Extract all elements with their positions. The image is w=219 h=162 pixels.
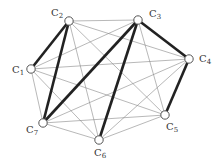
node-c2 xyxy=(65,17,73,25)
node-c1 xyxy=(27,65,35,73)
edge-c4-c5 xyxy=(165,59,189,115)
node-label-c5: C5 xyxy=(166,121,178,134)
complete-graph-diagram: C1C2C3C4C5C6C7 xyxy=(0,0,219,162)
node-c5 xyxy=(161,111,169,119)
node-labels: C1C2C3C4C5C6C7 xyxy=(12,7,212,160)
node-label-c1: C1 xyxy=(12,64,24,77)
node-c7 xyxy=(39,119,47,127)
node-c3 xyxy=(134,16,142,24)
edge-c2-c6 xyxy=(69,21,99,140)
edge-c3-c5 xyxy=(138,20,165,115)
node-c4 xyxy=(185,55,193,63)
node-label-c6: C6 xyxy=(94,147,107,160)
node-label-c7: C7 xyxy=(26,124,38,137)
node-label-c4: C4 xyxy=(199,53,212,66)
edge-c3-c6 xyxy=(99,20,138,140)
edge-c1-c4 xyxy=(31,59,189,69)
edge-c2-c5 xyxy=(69,21,165,115)
edge-c1-c3 xyxy=(31,20,138,69)
node-c6 xyxy=(95,136,103,144)
edge-c2-c4 xyxy=(69,21,189,59)
node-label-c2: C2 xyxy=(51,7,63,20)
node-label-c3: C3 xyxy=(149,8,161,21)
edge-c1-c6 xyxy=(31,69,99,140)
edge-c3-c4 xyxy=(138,20,189,59)
edge-c1-c7 xyxy=(31,69,43,123)
edge-c2-c3 xyxy=(69,20,138,21)
